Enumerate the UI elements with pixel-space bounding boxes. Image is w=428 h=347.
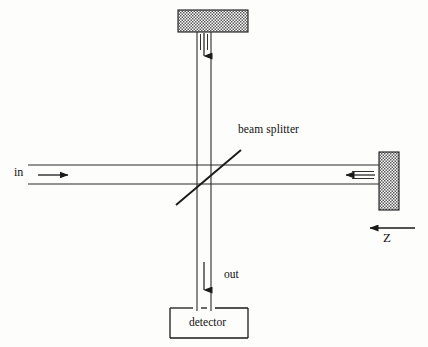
input-label: in [14, 165, 23, 180]
right-mirror [379, 152, 399, 210]
detector-label: detector [189, 316, 226, 328]
output-label: out [224, 268, 239, 280]
interferometer-figure: beam splitter in out detector Z [0, 0, 428, 347]
z-axis-label: Z [383, 230, 391, 246]
beam-splitter-line [176, 150, 241, 205]
top-mirror [178, 10, 248, 32]
right-mirror-return-arrow [346, 172, 375, 179]
diagram-canvas [0, 0, 428, 347]
beam-splitter-label: beam splitter [238, 123, 299, 135]
top-down-beam-arrow [201, 33, 208, 56]
